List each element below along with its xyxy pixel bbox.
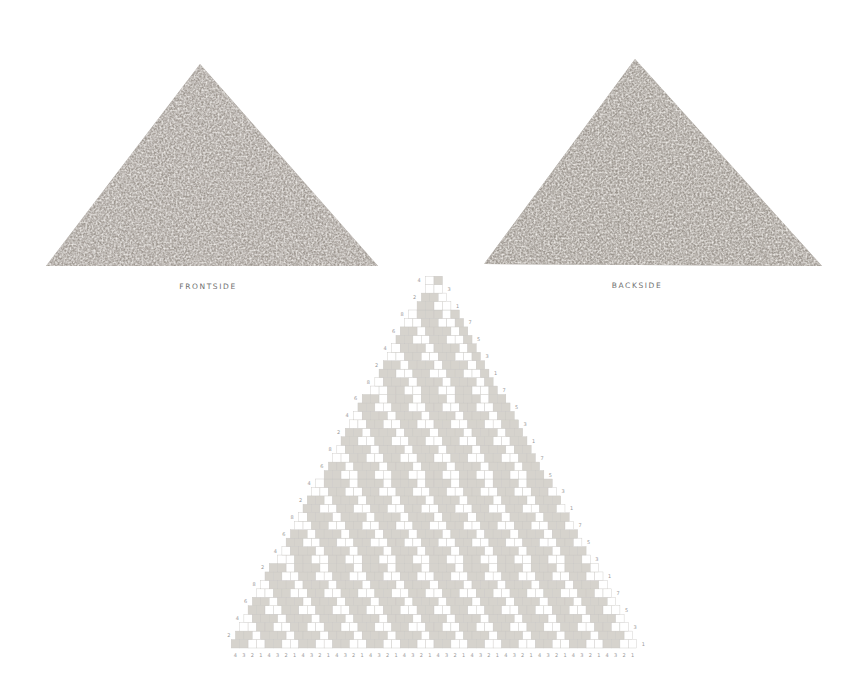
svg-text:2: 2 (623, 652, 626, 658)
svg-text:7: 7 (540, 455, 543, 461)
svg-text:1: 1 (462, 652, 465, 658)
svg-text:4: 4 (437, 652, 440, 658)
svg-text:6: 6 (392, 328, 395, 334)
svg-text:3: 3 (633, 624, 636, 630)
svg-text:6: 6 (244, 598, 247, 604)
svg-text:2: 2 (318, 652, 321, 658)
svg-text:3: 3 (411, 652, 414, 658)
svg-text:8: 8 (367, 379, 370, 385)
svg-text:3: 3 (614, 652, 617, 658)
svg-text:1: 1 (608, 573, 611, 579)
svg-text:3: 3 (524, 421, 527, 427)
svg-text:1: 1 (259, 652, 262, 658)
svg-text:2: 2 (337, 429, 340, 435)
svg-text:3: 3 (310, 652, 313, 658)
svg-text:5: 5 (515, 404, 518, 410)
svg-text:4: 4 (417, 277, 420, 283)
svg-text:1: 1 (563, 652, 566, 658)
svg-text:3: 3 (378, 652, 381, 658)
svg-text:2: 2 (261, 564, 264, 570)
svg-text:4: 4 (301, 652, 304, 658)
svg-text:1: 1 (293, 652, 296, 658)
svg-text:2: 2 (521, 652, 524, 658)
svg-text:8: 8 (329, 446, 332, 452)
knitting-chart: 1234567812345678123456781234567812345678… (0, 0, 860, 679)
svg-text:3: 3 (445, 652, 448, 658)
svg-text:1: 1 (456, 303, 459, 309)
svg-text:1: 1 (570, 505, 573, 511)
svg-text:4: 4 (606, 652, 609, 658)
svg-text:7: 7 (469, 319, 472, 325)
svg-text:4: 4 (346, 412, 349, 418)
svg-text:4: 4 (470, 652, 473, 658)
svg-text:4: 4 (384, 345, 387, 351)
svg-text:3: 3 (276, 652, 279, 658)
svg-text:3: 3 (595, 556, 598, 562)
svg-text:6: 6 (282, 531, 285, 537)
svg-text:4: 4 (369, 652, 372, 658)
svg-text:3: 3 (513, 652, 516, 658)
svg-text:1: 1 (428, 652, 431, 658)
svg-text:4: 4 (268, 652, 271, 658)
svg-text:1: 1 (631, 652, 634, 658)
svg-text:5: 5 (549, 472, 552, 478)
svg-text:1: 1 (530, 652, 533, 658)
svg-text:4: 4 (236, 615, 239, 621)
svg-text:6: 6 (354, 395, 357, 401)
svg-text:1: 1 (327, 652, 330, 658)
svg-text:3: 3 (479, 652, 482, 658)
svg-text:5: 5 (477, 336, 480, 342)
svg-text:3: 3 (580, 652, 583, 658)
svg-text:1: 1 (394, 652, 397, 658)
svg-text:1: 1 (597, 652, 600, 658)
svg-text:4: 4 (572, 652, 575, 658)
svg-text:7: 7 (578, 522, 581, 528)
svg-text:2: 2 (227, 632, 230, 638)
svg-text:4: 4 (504, 652, 507, 658)
svg-text:5: 5 (625, 607, 628, 613)
svg-text:2: 2 (487, 652, 490, 658)
svg-text:4: 4 (234, 652, 237, 658)
svg-text:6: 6 (320, 463, 323, 469)
svg-text:2: 2 (352, 652, 355, 658)
svg-text:2: 2 (589, 652, 592, 658)
svg-text:8: 8 (400, 311, 403, 317)
svg-text:4: 4 (403, 652, 406, 658)
svg-text:7: 7 (617, 590, 620, 596)
svg-text:3: 3 (344, 652, 347, 658)
svg-text:1: 1 (642, 641, 645, 647)
svg-text:3: 3 (242, 652, 245, 658)
svg-text:8: 8 (253, 581, 256, 587)
svg-text:1: 1 (532, 438, 535, 444)
svg-text:3: 3 (547, 652, 550, 658)
svg-text:2: 2 (413, 294, 416, 300)
svg-text:2: 2 (375, 362, 378, 368)
svg-text:4: 4 (538, 652, 541, 658)
svg-text:2: 2 (555, 652, 558, 658)
svg-text:7: 7 (502, 387, 505, 393)
svg-text:1: 1 (496, 652, 499, 658)
svg-text:3: 3 (447, 286, 450, 292)
svg-text:2: 2 (386, 652, 389, 658)
svg-text:4: 4 (335, 652, 338, 658)
svg-text:2: 2 (251, 652, 254, 658)
svg-text:2: 2 (299, 497, 302, 503)
svg-text:5: 5 (587, 539, 590, 545)
svg-text:4: 4 (308, 480, 311, 486)
svg-text:3: 3 (562, 488, 565, 494)
svg-text:4: 4 (274, 548, 277, 554)
svg-text:2: 2 (285, 652, 288, 658)
svg-text:1: 1 (361, 652, 364, 658)
svg-text:2: 2 (454, 652, 457, 658)
svg-text:2: 2 (420, 652, 423, 658)
svg-text:3: 3 (486, 353, 489, 359)
svg-text:8: 8 (291, 514, 294, 520)
svg-text:1: 1 (494, 370, 497, 376)
